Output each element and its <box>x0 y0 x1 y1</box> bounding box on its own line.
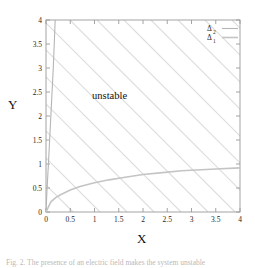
x-tick-label: 1 <box>93 215 97 224</box>
unstable-region-label: unstable <box>92 90 127 101</box>
figure-container: 00.511.522.533.54 00.511.522.533.54 unst… <box>0 0 255 268</box>
plot-canvas: 00.511.522.533.54 00.511.522.533.54 unst… <box>0 0 255 268</box>
x-tick-label: 2 <box>141 215 145 224</box>
legend-label-delta1-base: Δ <box>207 33 212 42</box>
x-tick-label: 3.5 <box>211 215 221 224</box>
y-tick-label: 2 <box>38 112 42 121</box>
x-tick-label: 3 <box>190 215 194 224</box>
x-tick-label: 2.5 <box>163 215 173 224</box>
figure-caption: Fig. 2. The presence of an electric fiel… <box>6 258 249 267</box>
y-tick-label: 1.5 <box>33 136 43 145</box>
x-tick-labels: 00.511.522.533.54 <box>44 215 242 224</box>
x-tick-label: 0 <box>44 215 48 224</box>
y-axis-title: Y <box>8 98 17 111</box>
y-tick-label: 3 <box>38 64 42 73</box>
y-tick-label: 2.5 <box>33 88 43 97</box>
legend-label-delta1-sub: 1 <box>213 38 216 44</box>
y-tick-label: 3.5 <box>33 40 43 49</box>
tick-marks <box>46 20 240 212</box>
data-series-group <box>46 20 240 212</box>
plot-frame <box>46 20 240 212</box>
x-tick-label: 1.5 <box>114 215 124 224</box>
legend: Δ 2 Δ 1 <box>207 24 238 44</box>
legend-label-delta2-sub: 2 <box>213 29 216 35</box>
x-axis-title: X <box>137 232 146 245</box>
series-line-delta1 <box>46 168 240 212</box>
y-tick-label: 1 <box>38 160 42 169</box>
y-tick-label: 0 <box>38 208 42 217</box>
y-tick-label: 0.5 <box>33 184 43 193</box>
legend-label-delta2-base: Δ <box>207 24 212 33</box>
x-tick-label: 4 <box>238 215 242 224</box>
y-tick-labels: 00.511.522.533.54 <box>33 16 43 217</box>
x-tick-label: 0.5 <box>66 215 76 224</box>
y-tick-label: 4 <box>38 16 42 25</box>
